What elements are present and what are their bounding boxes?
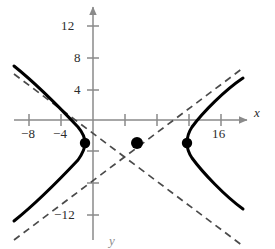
axes-group [14, 7, 247, 240]
hyperbola-figure: 12 8 4 −12 −8 −4 16 x y [0, 0, 275, 249]
left-vertex-point [80, 138, 90, 148]
x-axis-label: x [254, 106, 260, 119]
y-tick-label-8: 8 [74, 51, 81, 64]
right-branch [187, 78, 243, 209]
y-axis-label: y [109, 234, 115, 247]
y-tick-label-minus-12: −12 [54, 208, 75, 221]
graph-canvas [0, 0, 275, 249]
x-tick-label-minus-4: −4 [53, 127, 67, 140]
asymptote-negative-slope [14, 74, 243, 246]
y-tick-label-12: 12 [61, 19, 74, 32]
right-vertex-point [182, 138, 192, 148]
marked-points-group [80, 137, 192, 149]
hyperbola-curves [14, 66, 243, 221]
y-tick-label-4: 4 [74, 83, 81, 96]
x-tick-label-minus-8: −8 [21, 127, 35, 140]
center-point [131, 137, 143, 149]
asymptote-positive-slope [14, 68, 243, 240]
x-tick-label-16: 16 [212, 127, 225, 140]
